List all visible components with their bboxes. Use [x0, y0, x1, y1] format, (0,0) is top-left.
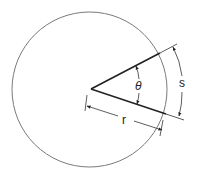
circle [12, 12, 167, 167]
lower-radius [91, 89, 166, 114]
arc-length-dimension-lower [179, 92, 182, 116]
lower-extension-line [166, 114, 184, 120]
arc-length-label: s [179, 76, 185, 90]
angle-dimension-lower [137, 93, 139, 104]
angle-dimension-upper [136, 66, 139, 79]
radius-label: r [122, 113, 126, 127]
arc-length-dimension-upper [173, 47, 182, 76]
upper-radius [91, 53, 160, 89]
upper-extension-line [160, 44, 177, 53]
radius-tick-right [160, 120, 163, 136]
angle-label: θ [135, 79, 142, 93]
circle-sector-diagram: θ s r [0, 0, 199, 176]
radius-dimension-left [87, 106, 118, 116]
radius-tick-left [85, 95, 87, 111]
